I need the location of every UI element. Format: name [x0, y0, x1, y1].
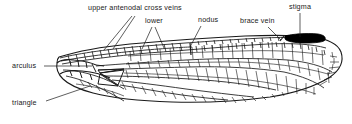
label-lower: lower [145, 17, 163, 25]
brace-vein [280, 36, 284, 41]
leader-nodus [190, 26, 201, 47]
figure-canvas: upper antenodal cross veins lower nodus … [0, 0, 352, 124]
label-stigma: stigma [289, 3, 311, 11]
stigma-patch [285, 34, 325, 43]
label-nodus: nodus [198, 16, 218, 24]
label-arculus: arculus [12, 62, 36, 70]
antenodal-cross-veins [68, 37, 325, 62]
dragonfly-wing-diagram [0, 0, 352, 124]
leader-triangle [46, 86, 90, 101]
label-brace-vein: brace vein [240, 17, 275, 25]
wing-cell-network [76, 42, 339, 103]
label-upper-antenodal-cross-veins: upper antenodal cross veins [88, 4, 182, 12]
label-triangle: triangle [12, 99, 37, 107]
